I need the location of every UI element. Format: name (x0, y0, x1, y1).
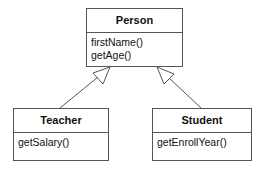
operations-teacher: getSalary() (14, 133, 108, 149)
teacher-generalization-arrow (60, 67, 110, 108)
operation: getEnrollYear() (157, 136, 251, 149)
class-student[interactable]: Student getEnrollYear() (152, 108, 252, 161)
operations-person: firstName() getAge() (87, 33, 182, 62)
class-name-student: Student (153, 109, 251, 133)
class-person[interactable]: Person firstName() getAge() (86, 8, 183, 67)
operations-student: getEnrollYear() (153, 133, 251, 149)
operation: getSalary() (18, 136, 108, 149)
class-name-person: Person (87, 9, 182, 33)
operation: getAge() (91, 49, 182, 62)
class-name-teacher: Teacher (14, 109, 108, 133)
class-teacher[interactable]: Teacher getSalary() (13, 108, 109, 161)
operation: firstName() (91, 36, 182, 49)
student-generalization-arrow (157, 67, 201, 108)
